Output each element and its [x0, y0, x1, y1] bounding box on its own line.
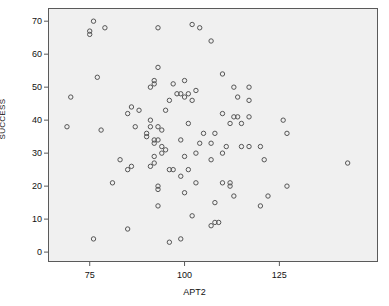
x-axis-title: APT2	[0, 287, 389, 297]
y-tick-label: 20	[14, 181, 42, 191]
y-tick-label: 0	[14, 247, 42, 257]
x-tick-label: 125	[272, 270, 287, 280]
x-tick-label: 100	[177, 270, 192, 280]
scatter-plot-figure: 010203040506070 75100125 APT2 SUCCESS	[0, 0, 389, 306]
y-tick-label: 50	[14, 82, 42, 92]
y-tick-label: 40	[14, 115, 42, 125]
y-tick-label: 70	[14, 16, 42, 26]
plot-area	[48, 8, 378, 262]
y-tick-label: 10	[14, 214, 42, 224]
y-axis-title: SUCCESS	[0, 99, 7, 140]
x-tick-label: 75	[85, 270, 95, 280]
y-tick-label: 30	[14, 148, 42, 158]
y-tick-label: 60	[14, 49, 42, 59]
